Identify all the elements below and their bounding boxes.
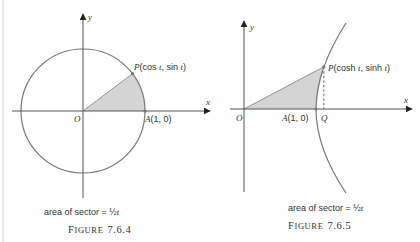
origin-label: O (236, 113, 243, 123)
figure-caption: FIGURE7.6.4 (68, 224, 132, 235)
point-q-label: Q (321, 113, 328, 123)
point-p-label: P(cos t, sin t) (133, 62, 186, 72)
figure-7-6-5: y x O P(cosh t, sinh t) A(1, 0) Q area o… (230, 21, 412, 231)
point-a-marker (143, 109, 146, 112)
figure-7-6-4: y x O P(cos t, sin t) A(1, 0) area of se… (12, 12, 210, 235)
origin-label: O (74, 114, 81, 124)
figure-caption: FIGURE7.6.5 (288, 220, 351, 231)
y-axis-label: y (87, 12, 92, 22)
y-axis-label: y (249, 22, 254, 32)
point-p-marker (322, 65, 325, 68)
area-of-sector-text: area of sector = ½t (44, 207, 120, 217)
x-axis-label: x (205, 97, 210, 107)
hyperbola-right-branch (316, 23, 346, 193)
x-axis-label: x (403, 95, 408, 105)
point-a-label: A(1, 0) (144, 114, 172, 124)
area-of-sector-text: area of sector = ½t (288, 203, 364, 213)
point-p-label: P(cosh t, sinh t) (327, 63, 390, 73)
point-p-marker (131, 72, 134, 75)
figure-canvas: y x O P(cos t, sin t) A(1, 0) area of se… (0, 0, 420, 242)
point-a-label: A(1, 0) (281, 113, 309, 123)
point-a-marker (314, 107, 317, 110)
